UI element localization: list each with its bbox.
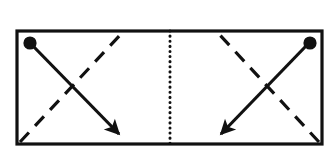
left-origin-dot [23, 36, 36, 49]
left-solid-arrow [33, 46, 119, 134]
right-origin-dot [303, 36, 316, 49]
right-half-group [218, 33, 319, 142]
schematic-diagram [0, 0, 331, 164]
left-half-group [20, 33, 122, 142]
right-solid-arrow [221, 46, 306, 134]
diagram-canvas [0, 0, 331, 164]
